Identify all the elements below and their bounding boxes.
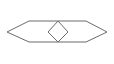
figure-svg <box>0 0 114 64</box>
canvas-background <box>0 0 114 64</box>
figure-canvas <box>0 0 114 64</box>
